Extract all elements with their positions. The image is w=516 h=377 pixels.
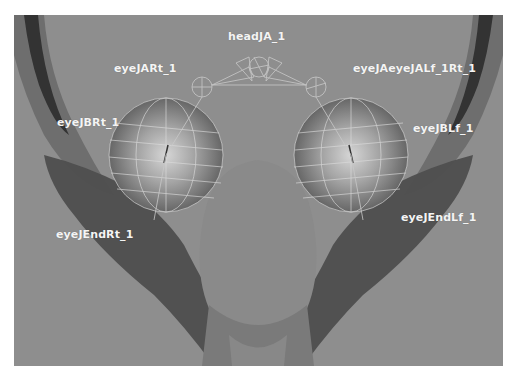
joint-label-eyeJALf[interactable]: eyeJAeyeJALf_1Rt_1 bbox=[353, 62, 476, 75]
joint-label-eyeJBLf[interactable]: eyeJBLf_1 bbox=[413, 122, 473, 135]
nose-bridge bbox=[200, 160, 317, 333]
joint-label-headJA[interactable]: headJA_1 bbox=[228, 30, 285, 43]
3d-viewport[interactable]: headJA_1 eyeJARt_1 eyeJAeyeJALf_1Rt_1 ey… bbox=[14, 15, 503, 366]
joint-label-eyeJBRt[interactable]: eyeJBRt_1 bbox=[57, 116, 119, 129]
joint-label-eyeJEndRt[interactable]: eyeJEndRt_1 bbox=[56, 228, 133, 241]
joint-label-eyeJARt[interactable]: eyeJARt_1 bbox=[114, 62, 176, 75]
joint-label-eyeJEndLf[interactable]: eyeJEndLf_1 bbox=[401, 211, 476, 224]
